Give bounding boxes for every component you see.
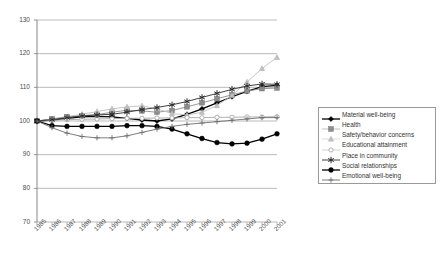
legend-item-5[interactable]: Social relationships — [321, 161, 433, 171]
y-tick-label: 110 — [6, 84, 30, 91]
social-indicators-line-chart: 708090100110120130 198519861987198819891… — [0, 0, 441, 272]
data-point-circle-filled — [230, 141, 235, 146]
legend-marker-triangle-icon — [321, 130, 341, 140]
legend-marker-plus-icon — [321, 171, 341, 181]
data-point-asterisk — [199, 94, 205, 100]
legend-marker-circle-filled-icon — [321, 161, 341, 171]
data-point-circle-open — [170, 116, 174, 120]
data-point-circle-filled — [275, 131, 280, 136]
data-point-circle-filled — [110, 124, 115, 129]
data-point-circle-filled — [140, 123, 145, 128]
legend-marker-asterisk-icon — [321, 151, 341, 161]
data-point-circle-filled — [185, 131, 190, 136]
data-point-circle-filled — [260, 137, 265, 142]
data-point-circle-filled — [215, 140, 220, 145]
data-point-circle-filled — [245, 141, 250, 146]
legend-label: Material well-being — [341, 112, 395, 118]
legend-item-3[interactable]: Educational attainment — [321, 141, 433, 151]
data-point-plus — [64, 131, 69, 136]
legend-marker-diamond-icon — [321, 110, 341, 120]
data-point-circle-open — [155, 116, 159, 120]
y-tick-label: 70 — [6, 219, 30, 226]
data-point-triangle — [259, 66, 264, 71]
data-point-plus — [79, 134, 84, 139]
data-point-circle-filled — [65, 124, 70, 129]
chart-legend: Material well-beingHealthSafety/behavior… — [318, 107, 436, 184]
y-tick-label: 90 — [6, 151, 30, 158]
data-point-square — [185, 105, 190, 110]
data-point-plus — [109, 135, 114, 140]
data-point-plus — [214, 119, 219, 124]
data-point-circle-open — [215, 115, 219, 119]
legend-label: Health — [341, 122, 360, 128]
data-point-plus — [184, 122, 189, 127]
data-point-circle-filled — [80, 124, 85, 129]
data-point-circle-filled — [200, 136, 205, 141]
legend-item-1[interactable]: Health — [321, 120, 433, 130]
y-tick-label: 80 — [6, 185, 30, 192]
data-point-square — [245, 89, 250, 94]
data-point-triangle — [274, 55, 279, 60]
data-point-plus — [139, 130, 144, 135]
data-point-circle-open — [200, 116, 204, 120]
data-point-square — [215, 96, 220, 101]
legend-label: Educational attainment — [341, 142, 407, 148]
data-point-square — [200, 101, 205, 106]
data-point-circle-open — [140, 116, 144, 120]
legend-label: Social relationships — [341, 163, 397, 169]
y-tick-label: 120 — [6, 50, 30, 57]
legend-item-6[interactable]: Emotional well-being — [321, 171, 433, 181]
data-point-asterisk — [214, 90, 220, 96]
y-tick-label: 130 — [6, 17, 30, 24]
data-point-plus — [124, 133, 129, 138]
legend-marker-square-icon — [321, 120, 341, 130]
legend-label: Place in community — [341, 153, 397, 159]
data-point-plus — [94, 135, 99, 140]
y-tick-label: 100 — [6, 118, 30, 125]
data-point-circle-filled — [95, 124, 100, 129]
data-point-circle-open — [185, 116, 189, 120]
legend-label: Safety/behavior concerns — [341, 132, 414, 138]
data-point-circle-filled — [125, 123, 130, 128]
legend-item-0[interactable]: Material well-being — [321, 110, 433, 120]
legend-label: Emotional well-being — [341, 173, 401, 179]
data-point-circle-open — [125, 116, 129, 120]
legend-marker-circle-open-icon — [321, 141, 341, 151]
data-point-plus — [328, 178, 333, 183]
legend-item-2[interactable]: Safety/behavior concerns — [321, 130, 433, 140]
legend-item-4[interactable]: Place in community — [321, 151, 433, 161]
